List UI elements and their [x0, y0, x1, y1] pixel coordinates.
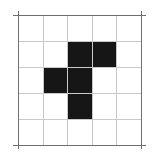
filled-cell-r1-c3: [92, 41, 117, 67]
grid-line-vertical-2: [67, 15, 68, 145]
frame-line-left: [18, 11, 19, 149]
grid-line-horizontal-4: [18, 119, 141, 120]
frame-line-right: [141, 11, 142, 149]
figure-description: Five filled black square cells arranged …: [0, 16, 1, 17]
filled-cell-r1-c2: [67, 41, 92, 67]
filled-cell-r2-c1: [43, 67, 68, 93]
figure-root: Pentomino on 5 by 5 grid Five filled bla…: [0, 0, 160, 160]
grid-line-horizontal-1: [18, 41, 141, 42]
grid-line-horizontal-3: [18, 93, 141, 94]
filled-cell-r2-c2: [67, 67, 92, 93]
figure-title: Pentomino on 5 by 5 grid: [0, 21, 1, 22]
grid-line-vertical-3: [92, 15, 93, 145]
frame-line-top: [13, 15, 146, 16]
grid-line-horizontal-2: [18, 67, 141, 68]
grid-line-vertical-4: [116, 15, 117, 145]
frame-line-bottom: [13, 145, 146, 146]
grid-area: [18, 15, 141, 145]
filled-cell-r3-c2: [67, 93, 92, 119]
grid-line-vertical-1: [43, 15, 44, 145]
